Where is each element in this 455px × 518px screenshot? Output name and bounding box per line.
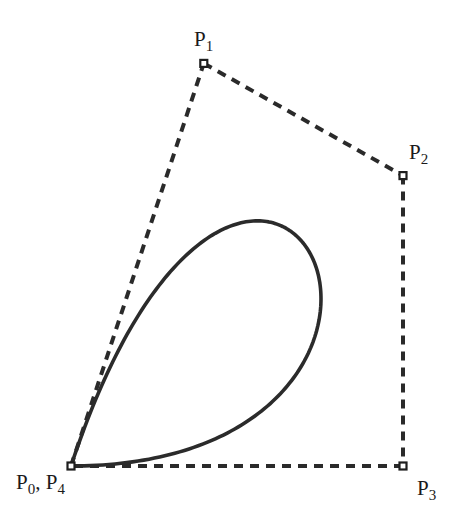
bezier-curve bbox=[71, 221, 321, 466]
control-point-marker-p1 bbox=[200, 60, 207, 67]
label-p3-main: P bbox=[417, 476, 429, 500]
label-p1: P1 bbox=[194, 27, 213, 54]
label-p2-sub: 2 bbox=[421, 151, 429, 167]
label-p1-main: P bbox=[194, 27, 206, 51]
label-p0-main: P bbox=[16, 470, 28, 494]
label-p0-sub: 0 bbox=[28, 481, 36, 497]
label-p1-sub: 1 bbox=[206, 38, 214, 54]
label-separator: , bbox=[35, 470, 46, 494]
label-p2: P2 bbox=[409, 140, 428, 167]
control-polygon bbox=[71, 63, 403, 466]
label-p3-sub: 3 bbox=[429, 487, 437, 503]
label-p3: P3 bbox=[417, 476, 436, 503]
polygon-edge-p0-p1 bbox=[71, 63, 204, 466]
control-point-marker-p2 bbox=[400, 172, 407, 179]
polygon-edge-p1-p2 bbox=[204, 63, 403, 175]
control-point-marker-p0 bbox=[68, 463, 75, 470]
bezier-figure: P1 P2 P3 P0, P4 bbox=[0, 0, 455, 518]
label-p0-p4: P0, P4 bbox=[16, 470, 65, 497]
control-point-markers bbox=[68, 60, 407, 470]
label-p4-sub: 4 bbox=[57, 481, 65, 497]
label-p4-main: P bbox=[46, 470, 58, 494]
label-p2-main: P bbox=[409, 140, 421, 164]
control-point-marker-p3 bbox=[400, 463, 407, 470]
